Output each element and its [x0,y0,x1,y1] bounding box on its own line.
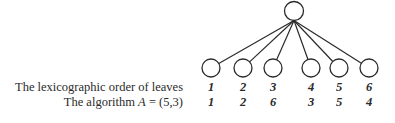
leaf-nodes [202,59,378,77]
tree-edges [219,21,362,64]
leaf-value: 5 [336,80,342,95]
tree-edge [277,21,294,60]
leaf-node [360,59,378,77]
tree-edge [250,21,294,62]
leaf-value: 6 [366,80,372,95]
leaf-value: 3 [270,80,276,95]
leaf-value: 2 [240,95,246,110]
leaf-value: 4 [366,95,372,110]
leaf-value: 1 [208,95,214,110]
leaf-value: 4 [308,80,314,95]
leaf-node [302,59,320,77]
leaf-node [202,59,220,77]
leaf-node [264,59,282,77]
leaf-value: 5 [336,95,342,110]
leaf-value: 3 [308,95,314,110]
row-label-algorithm: The algorithm A = (5,3) [64,95,183,110]
leaf-node [234,59,252,77]
row-label-lexicographic-order: The lexicographic order of leaves [15,80,183,95]
root-node [285,2,304,21]
leaf-value: 1 [208,80,214,95]
leaf-node [330,59,348,77]
tree-edge [219,21,294,64]
tree-edge [294,21,308,60]
variable-a: A [138,95,146,109]
leaf-value: 2 [240,80,246,95]
leaf-value: 6 [270,95,276,110]
